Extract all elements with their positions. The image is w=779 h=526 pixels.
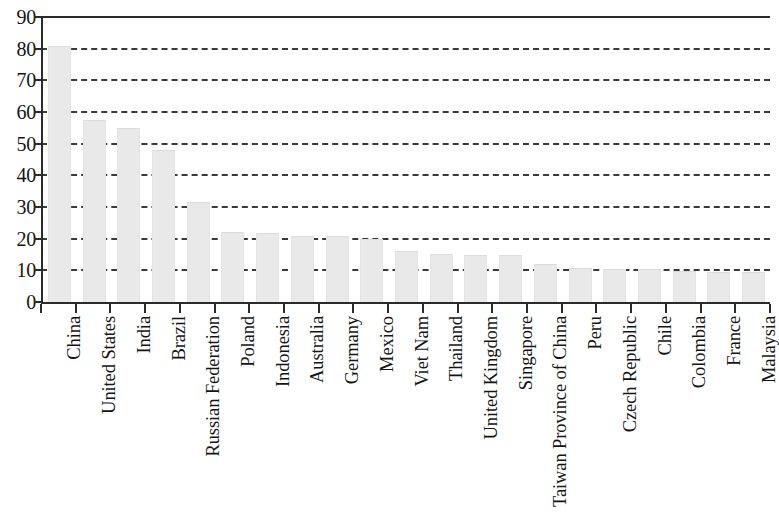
x-axis-category-label: Brazil [170, 316, 189, 361]
bar [673, 271, 696, 303]
x-axis-category-label: Australia [308, 316, 327, 383]
bar [534, 264, 557, 303]
x-axis-tick-mark [352, 304, 354, 313]
bar [221, 232, 244, 303]
x-axis-tick-mark [422, 304, 424, 313]
bar [464, 255, 487, 304]
x-axis-category-label: Poland [239, 316, 258, 367]
bar [48, 46, 71, 304]
bar [83, 120, 106, 303]
x-axis-line [41, 302, 770, 304]
bar [326, 236, 349, 304]
x-axis-category-label: Czech Republic [621, 316, 640, 432]
x-axis-category-label: Viet Nam [413, 316, 432, 387]
x-axis-tick-mark [214, 304, 216, 313]
x-axis-category-label: France [725, 316, 744, 366]
x-axis-tick-mark [769, 304, 771, 313]
bar [742, 272, 765, 303]
x-axis-tick-mark [665, 304, 667, 313]
x-axis-tick-mark [526, 304, 528, 313]
x-axis-tick-mark [318, 304, 320, 313]
x-axis-tick-mark [144, 304, 146, 313]
bar [430, 254, 453, 303]
bar [117, 128, 140, 303]
x-axis-tick-mark [179, 304, 181, 313]
bar [569, 268, 592, 303]
x-axis-tick-mark [630, 304, 632, 313]
x-axis-category-label: Germany [343, 316, 362, 384]
x-axis-category-label: Peru [586, 316, 605, 350]
bar [603, 269, 626, 303]
bar [638, 269, 661, 303]
x-axis-category-label: Singapore [517, 316, 536, 390]
x-axis-category-label: Thailand [447, 316, 466, 381]
x-axis-category-label: United Kingdom [482, 316, 501, 439]
x-axis-category-label: Russian Federation [204, 316, 223, 457]
x-axis-tick-mark [40, 304, 42, 313]
bar [360, 239, 383, 303]
bar [291, 236, 314, 304]
bar [395, 251, 418, 303]
x-axis-tick-mark [700, 304, 702, 313]
x-axis-category-label: Taiwan Province of China [551, 316, 570, 507]
x-axis-category-label: Chile [656, 316, 675, 356]
x-axis-tick-mark [248, 304, 250, 313]
x-axis-tick-mark [75, 304, 77, 313]
x-axis-category-label: China [65, 316, 84, 360]
x-axis-tick-mark [387, 304, 389, 313]
x-axis-category-label: Mexico [378, 316, 397, 372]
x-axis-tick-mark [283, 304, 285, 313]
x-axis-tick-mark [734, 304, 736, 313]
x-axis-tick-mark [491, 304, 493, 313]
x-axis-tick-mark [457, 304, 459, 313]
x-axis-category-label: Malaysia [760, 316, 779, 383]
x-axis-tick-mark [109, 304, 111, 313]
bar [187, 202, 210, 303]
x-axis-category-label: India [135, 316, 154, 354]
x-axis-category-label: United States [100, 316, 119, 414]
bar [256, 233, 279, 303]
bar [152, 150, 175, 303]
x-axis-tick-mark [595, 304, 597, 313]
x-axis-category-label: Indonesia [274, 316, 293, 387]
bar [499, 255, 522, 303]
x-axis-tick-mark [561, 304, 563, 313]
x-axis-category-label: Colombia [690, 316, 709, 388]
bar [707, 272, 730, 303]
